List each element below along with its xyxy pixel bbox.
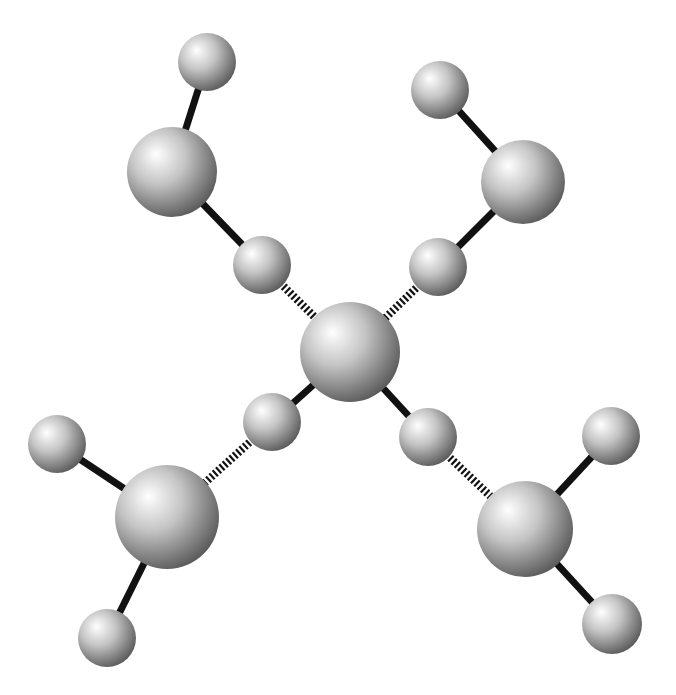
large-atom — [300, 302, 400, 402]
molecule-canvas — [0, 0, 676, 695]
large-atom — [127, 127, 217, 217]
small-atom — [243, 393, 301, 451]
molecule-diagram — [0, 0, 676, 695]
hydrogen-bond — [203, 437, 255, 485]
hydrogen-bond — [278, 281, 316, 318]
small-atom — [233, 236, 291, 294]
large-atom — [115, 465, 219, 569]
small-atom — [78, 609, 136, 667]
atom-layer — [28, 33, 642, 667]
small-atom — [399, 408, 457, 466]
small-atom — [178, 33, 236, 91]
small-atom — [411, 61, 469, 119]
large-atom — [477, 481, 573, 577]
large-atom — [481, 140, 565, 224]
small-atom — [582, 594, 642, 654]
small-atom — [409, 238, 467, 296]
small-atom — [582, 407, 640, 465]
small-atom — [28, 415, 86, 473]
hydrogen-bond — [383, 283, 421, 320]
hydrogen-bond — [445, 453, 493, 499]
